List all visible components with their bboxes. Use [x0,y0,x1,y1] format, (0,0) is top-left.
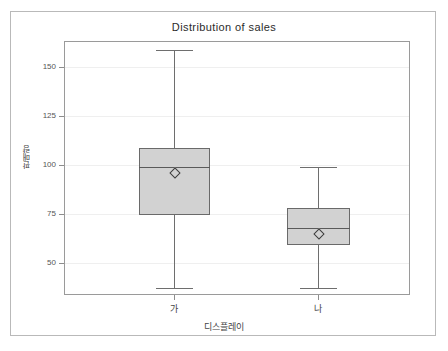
ytick-mark-50 [59,263,64,264]
ytick-mark-75 [59,214,64,215]
upper-whisker-cap-ga [156,50,193,51]
plot-area-frame [64,41,410,295]
ytick-label-125: 125 [22,111,56,120]
ytick-mark-150 [59,67,64,68]
upper-whisker-line-ga [174,50,175,148]
ytick-label-75: 75 [22,209,56,218]
box-ga [139,148,210,215]
x-axis-label: 디스플레이 [0,320,448,333]
ytick-mark-100 [59,165,64,166]
xtick-label-ga: 가 [159,302,189,315]
lower-whisker-line-ga [174,215,175,288]
upper-whisker-line-na [318,167,319,208]
y-axis-label: 판매량 [22,145,36,169]
lower-whisker-cap-na [300,288,337,289]
chart-title: Distribution of sales [0,21,448,33]
xtick-mark-na [318,295,319,300]
ytick-mark-125 [59,116,64,117]
lower-whisker-cap-ga [156,288,193,289]
ytick-label-150: 150 [22,62,56,71]
xtick-label-na: 나 [303,302,333,315]
lower-whisker-line-na [318,245,319,288]
upper-whisker-cap-na [300,167,337,168]
xtick-mark-ga [174,295,175,300]
ytick-label-50: 50 [22,258,56,267]
